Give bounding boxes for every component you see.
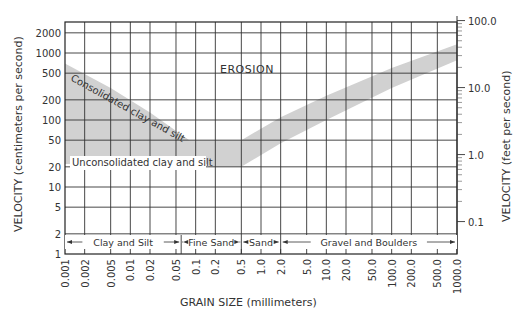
y-tick-label: 2 — [55, 229, 61, 240]
y-axis-left-ticks: 12510205010020050010002000 — [36, 28, 61, 260]
y-axis-left-title: VELOCITY (centimeters per second) — [12, 36, 25, 232]
y-right-tick-label: 10.0 — [468, 83, 490, 94]
y-tick-label: 100 — [42, 115, 61, 126]
x-tick-label: 0.1 — [191, 259, 202, 275]
velocity-grain-size-chart: 12510205010020050010002000 0.11.010.0100… — [0, 0, 522, 320]
x-tick-label: 1000.0 — [452, 259, 463, 294]
y-right-tick-label: 1.0 — [468, 150, 484, 161]
grain-class-label: Gravel and Boulders — [320, 237, 417, 248]
x-tick-label: 2.0 — [276, 259, 287, 275]
x-tick-label: 20.0 — [341, 259, 352, 281]
x-tick-label: 5.0 — [302, 259, 313, 275]
y-tick-label: 5 — [55, 202, 61, 213]
y-tick-label: 10 — [48, 182, 61, 193]
y-tick-label: 2000 — [36, 28, 61, 39]
grain-class-label: Clay and Silt — [93, 237, 153, 248]
y-axis-right-title: VELOCITY (feet per second) — [500, 70, 513, 222]
x-axis-ticks: 0.0010.0020.0050.010.020.050.10.20.51.02… — [60, 259, 463, 294]
x-axis-title: GRAIN SIZE (millimeters) — [180, 296, 317, 309]
x-tick-label: 1.0 — [256, 259, 267, 275]
x-tick-label: 0.2 — [210, 259, 221, 275]
x-tick-label: 0.05 — [171, 259, 182, 281]
grain-class-label: Sand — [249, 237, 273, 248]
x-tick-label: 0.002 — [80, 259, 91, 288]
x-tick-label: 10.0 — [321, 259, 332, 281]
y-tick-label: 200 — [42, 95, 61, 106]
unconsolidated-label: Unconsolidated clay and silt — [72, 157, 213, 168]
x-tick-label: 0.01 — [125, 259, 136, 281]
x-tick-label: 0.02 — [145, 259, 156, 281]
x-tick-label: 200.0 — [406, 259, 417, 288]
x-tick-label: 0.5 — [236, 259, 247, 275]
y-axis-right-ticks: 0.11.010.0100.0 — [457, 16, 497, 254]
grain-class-label: Fine Sand — [188, 237, 234, 248]
y-tick-label: 50 — [48, 135, 61, 146]
x-tick-label: 0.005 — [106, 259, 117, 288]
y-tick-label: 1000 — [36, 48, 61, 59]
y-tick-label: 1 — [55, 249, 61, 260]
x-tick-label: 100.0 — [387, 259, 398, 288]
y-tick-label: 500 — [42, 68, 61, 79]
x-tick-label: 50.0 — [367, 259, 378, 281]
y-tick-label: 20 — [48, 162, 61, 173]
erosion-label: EROSION — [220, 63, 274, 76]
x-tick-label: 0.001 — [60, 259, 71, 288]
x-tick-label: 500.0 — [432, 259, 443, 288]
y-right-tick-label: 0.1 — [468, 217, 484, 228]
y-right-tick-label: 100.0 — [468, 16, 497, 27]
